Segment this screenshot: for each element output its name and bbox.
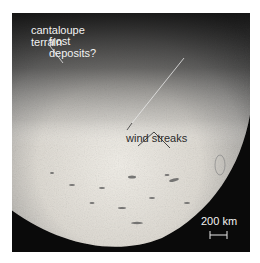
scale-bar-label: 200 km: [201, 215, 237, 227]
moon-photograph: cantaloupe terrain frost deposits? wind …: [12, 13, 250, 252]
wind-streaks-label: wind streaks: [126, 132, 187, 144]
scale-bar: [210, 231, 227, 239]
frost-deposits-label: frost deposits?: [49, 35, 96, 59]
